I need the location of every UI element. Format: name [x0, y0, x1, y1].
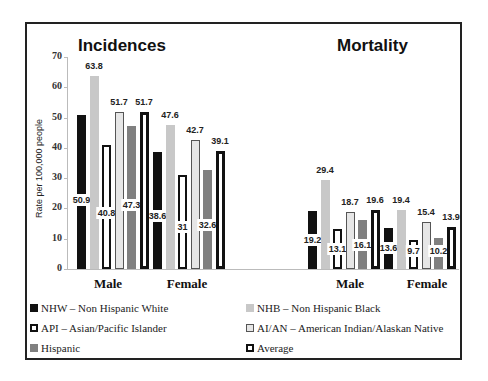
y-tick-label: 0	[38, 262, 62, 273]
category-label-incidences-male: Male	[94, 276, 122, 292]
legend-item-api: API – Asian/Pacific Islander	[30, 322, 167, 334]
bar-incidences-male-average	[140, 112, 149, 269]
y-tick-label: 20	[38, 201, 62, 212]
legend-label: AI/AN – American Indian/Alaskan Native	[257, 322, 443, 334]
bar-incidences-male-hispanic	[127, 126, 136, 269]
bar-incidences-male-nhw	[77, 115, 86, 269]
legend-label: Hispanic	[41, 342, 80, 354]
category-label-mortality-female: Female	[407, 276, 447, 292]
legend-label: NHB – Non Hispanic Black	[257, 302, 380, 314]
swatch-gray-outline-icon	[246, 324, 254, 332]
swatch-solid-black-icon	[30, 304, 38, 312]
category-label-incidences-female: Female	[167, 276, 207, 292]
y-tick-label: 40	[38, 141, 62, 152]
legend-item-average: Average	[246, 342, 293, 354]
swatch-black-outline-icon	[30, 324, 38, 332]
y-tick-label: 30	[38, 171, 62, 182]
y-axis-line	[67, 57, 68, 270]
legend-label: Average	[257, 342, 293, 354]
legend-item-aian: AI/AN – American Indian/Alaskan Native	[246, 322, 443, 334]
data-label: 31	[175, 221, 189, 233]
incidences-title: Incidences	[78, 36, 166, 56]
bar-mortality-male-nhb	[321, 180, 330, 269]
data-label: 51.7	[135, 97, 153, 107]
swatch-light-gray-icon	[246, 304, 254, 312]
bar-incidences-female-aian	[191, 140, 200, 269]
category-label-mortality-male: Male	[336, 276, 364, 292]
data-label: 51.7	[110, 97, 128, 107]
bar-incidences-female-nhb	[166, 125, 175, 269]
bar-mortality-female-nhb	[397, 210, 406, 269]
bar-mortality-female-average	[447, 227, 456, 269]
swatch-mid-gray-icon	[30, 344, 38, 352]
x-axis-line	[67, 269, 459, 270]
y-tick-label: 60	[38, 80, 62, 91]
data-label: 19.4	[392, 195, 410, 205]
swatch-thick-black-outline-icon	[246, 344, 254, 352]
legend-item-nhb: NHB – Non Hispanic Black	[246, 302, 380, 314]
data-label: 15.4	[417, 207, 435, 217]
data-label: 42.7	[186, 125, 204, 135]
y-tick-label: 70	[38, 50, 62, 61]
bar-mortality-male-average	[371, 210, 380, 269]
legend-label: API – Asian/Pacific Islander	[41, 322, 167, 334]
mortality-title: Mortality	[337, 36, 408, 56]
data-label: 19.6	[366, 195, 384, 205]
data-label: 13.9	[442, 212, 460, 222]
data-label: 9.7	[405, 245, 422, 257]
data-label: 63.8	[85, 61, 103, 71]
legend-item-hispanic: Hispanic	[30, 342, 80, 354]
data-label: 29.4	[316, 165, 334, 175]
y-tick-label: 10	[38, 232, 62, 243]
y-tick-label: 50	[38, 111, 62, 122]
data-label: 39.1	[211, 136, 229, 146]
bar-incidences-male-aian	[115, 112, 124, 269]
data-label: 18.7	[341, 197, 359, 207]
bar-incidences-male-nhb	[90, 76, 99, 269]
legend-item-nhw: NHW – Non Hispanic White	[30, 302, 168, 314]
bar-incidences-female-average	[216, 151, 225, 269]
legend-label: NHW – Non Hispanic White	[41, 302, 168, 314]
data-label: 47.6	[161, 110, 179, 120]
